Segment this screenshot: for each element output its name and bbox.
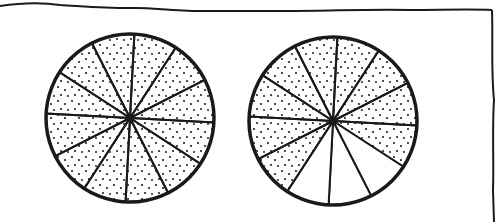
frame-right-border [492, 10, 494, 222]
right-wheel-caption: 9/12 shaded [0, 0, 1, 1]
left-wheel [46, 34, 214, 202]
right-wheel [249, 37, 417, 205]
wheel-center [127, 115, 133, 121]
fraction-diagram [0, 0, 503, 222]
wheel-center [330, 118, 336, 124]
frame-top-border [0, 3, 492, 11]
